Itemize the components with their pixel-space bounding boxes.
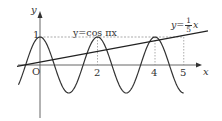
- line-label-suffix: x: [193, 20, 198, 30]
- cosine-label: y=cos πx: [73, 28, 117, 38]
- x-axis-label: x: [203, 67, 209, 77]
- line-label-fraction: 1 5: [185, 17, 192, 33]
- fraction-denominator: 5: [186, 26, 191, 34]
- line-label: y= 1 5 x: [171, 17, 198, 33]
- tick-x-four: 4: [151, 68, 157, 78]
- tick-x-two: 2: [94, 68, 100, 78]
- x-axis-arrow-icon: [196, 63, 202, 68]
- line-label-prefix: y=: [171, 20, 184, 30]
- tick-y-one: 1: [33, 30, 39, 40]
- tick-x-five: 5: [180, 68, 186, 78]
- y-axis-arrow-icon: [38, 11, 43, 18]
- y-axis-label: y: [31, 5, 37, 15]
- origin-label: O: [32, 67, 40, 77]
